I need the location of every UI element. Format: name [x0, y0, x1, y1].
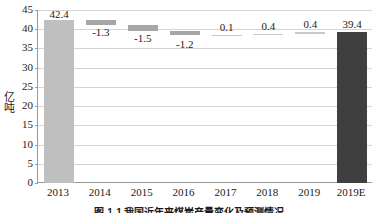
gridline-30: [38, 68, 372, 69]
plot-area: 42.4 -1.3 -1.5 -1.2 0.1 0.4 0.4 39.4: [37, 10, 372, 183]
y-tick-label: 0: [0, 177, 33, 188]
gridline-5: [38, 164, 372, 165]
gridline-45: [38, 10, 372, 11]
x-tick-label-2013: 2013: [37, 185, 79, 199]
x-tick-label-2018: 2018: [246, 185, 288, 199]
y-tickmark: [35, 183, 38, 184]
gridline-15: [38, 125, 372, 126]
y-tick-label: 15: [0, 119, 33, 130]
y-tick-label: 10: [0, 139, 33, 150]
y-tick-label: 30: [0, 62, 33, 73]
y-tickmark: [35, 145, 38, 146]
y-tickmark: [35, 48, 38, 49]
y-tickmark: [35, 29, 38, 30]
x-tick-label-2017: 2017: [205, 185, 247, 199]
y-tickmark: [35, 68, 38, 69]
bar-2016: [170, 31, 200, 36]
x-tick-label-2015: 2015: [121, 185, 163, 199]
bar-2013: [44, 20, 74, 183]
bar-2014: [86, 20, 116, 25]
y-tickmark: [35, 164, 38, 165]
data-label-2014: -1.3: [86, 26, 116, 38]
x-tick-label-2016: 2016: [163, 185, 205, 199]
data-label-2015: -1.5: [128, 32, 158, 44]
figure-caption: 图 1-1 我国近年来煤炭产量变化及预测情况: [0, 204, 379, 213]
data-label-2017: 0.1: [212, 21, 242, 33]
data-label-2013: 42.4: [44, 8, 74, 20]
x-tick-label-2019: 2019: [288, 185, 330, 199]
y-tick-label: 40: [0, 23, 33, 34]
y-axis-tick-labels: 45 40 35 30 25 20 15 10 5 0: [0, 10, 37, 183]
bar-2018: [253, 34, 283, 36]
bar-2019: [295, 32, 325, 34]
y-tick-label: 20: [0, 100, 33, 111]
y-tick-label: 25: [0, 81, 33, 92]
x-tick-label-2019E: 2019E: [330, 185, 372, 199]
plot-inner: 42.4 -1.3 -1.5 -1.2 0.1 0.4 0.4 39.4: [38, 10, 372, 182]
data-label-2019: 0.4: [295, 18, 325, 30]
y-tick-label: 5: [0, 158, 33, 169]
bar-2019E: [337, 32, 367, 184]
bar-2015: [128, 25, 158, 31]
data-label-2019E: 39.4: [337, 18, 367, 30]
y-tickmark: [35, 87, 38, 88]
y-tickmark: [35, 10, 38, 11]
bar-2017: [212, 35, 242, 36]
data-label-2016: -1.2: [170, 38, 200, 50]
y-tick-label: 45: [0, 4, 33, 15]
gridline-35: [38, 48, 372, 49]
y-tickmark: [35, 106, 38, 107]
y-tickmark: [35, 125, 38, 126]
x-tick-label-2014: 2014: [79, 185, 121, 199]
x-axis-tick-labels: 2013 2014 2015 2016 2017 2018 2019 2019E: [37, 185, 372, 201]
gridline-10: [38, 145, 372, 146]
gridline-25: [38, 87, 372, 88]
waterfall-chart: 亿吨 45 40 35 30 25 20 15 10 5 0: [0, 0, 379, 213]
data-label-2018: 0.4: [253, 20, 283, 32]
y-tick-label: 35: [0, 42, 33, 53]
gridline-20: [38, 106, 372, 107]
